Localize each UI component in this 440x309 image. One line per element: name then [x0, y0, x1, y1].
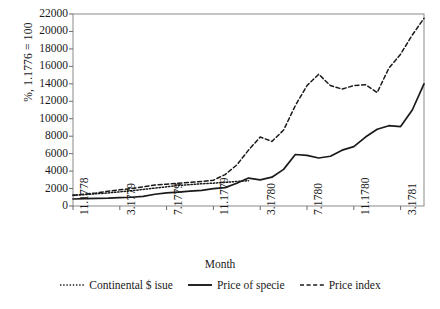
chart-legend: Continental $ isuePrice of speciePrice i…: [0, 279, 440, 291]
x-tick-label: 7.1779: [172, 183, 184, 215]
x-tick-label: 7.1780: [312, 183, 324, 215]
x-axis-title: Month: [0, 258, 440, 270]
x-tick-label: 3.1779: [125, 183, 137, 215]
x-tick-label: 3.1781: [406, 183, 418, 215]
plot-frame: [73, 14, 424, 206]
y-tick-label: 12000: [39, 95, 68, 107]
y-tick-label: 0: [62, 200, 68, 212]
y-tick-label: 10000: [39, 113, 68, 125]
y-tick-label: 8000: [45, 130, 68, 142]
y-tick-label: 2000: [45, 183, 68, 195]
y-tick-label: 16000: [39, 60, 68, 72]
series-line-3: [73, 18, 424, 195]
legend-label: Price index: [329, 279, 381, 291]
series-line-2: [73, 84, 424, 199]
y-tick-label: 20000: [39, 25, 68, 37]
legend-swatch-dashed-icon: [299, 280, 325, 290]
legend-item: Price of specie: [187, 279, 285, 291]
series-group: [73, 18, 424, 199]
legend-item: Continental $ isue: [59, 279, 173, 291]
y-tick-label: 18000: [39, 43, 68, 55]
x-tick-label: 11.1780: [359, 177, 371, 215]
x-tick-label: 3.1780: [265, 183, 277, 215]
y-tick-label: 14000: [39, 78, 68, 90]
y-tick-label: 6000: [45, 148, 68, 160]
legend-label: Continental $ isue: [89, 279, 173, 291]
x-tick-label: 11.1779: [218, 177, 230, 215]
y-tick-label: 4000: [45, 165, 68, 177]
x-tick-label: 11.1778: [78, 177, 90, 215]
legend-swatch-dotted-icon: [59, 280, 85, 290]
legend-label: Price of specie: [217, 279, 285, 291]
axis-tickmarks: [69, 14, 401, 210]
chart-container: %, 1.1776 = 100 020004000600080001000012…: [0, 0, 440, 309]
y-tick-label: 22000: [39, 8, 68, 20]
legend-item: Price index: [299, 279, 381, 291]
legend-swatch-solid-icon: [187, 280, 213, 290]
